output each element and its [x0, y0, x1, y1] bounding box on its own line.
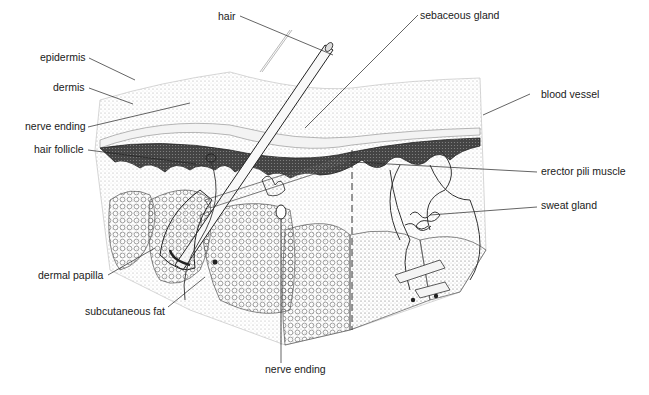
label-nerve-ending-top: nerve ending: [25, 120, 86, 132]
label-nerve-ending-bottom: nerve ending: [265, 363, 326, 375]
label-hair-follicle: hair follicle: [34, 143, 84, 155]
label-blood-vessel: blood vessel: [541, 88, 599, 100]
label-dermis: dermis: [53, 81, 85, 93]
label-subcutaneous-fat: subcutaneous fat: [85, 305, 165, 317]
label-sweat-gland: sweat gland: [541, 199, 597, 211]
label-dermal-papilla: dermal papilla: [38, 269, 103, 281]
skin-illustration: [0, 0, 649, 395]
label-epidermis: epidermis: [40, 51, 86, 63]
label-hair: hair: [218, 10, 236, 22]
label-erector-pili-muscle: erector pili muscle: [541, 165, 626, 177]
label-sebaceous-gland: sebaceous gland: [420, 9, 499, 21]
skin-diagram: epidermis dermis nerve ending hair folli…: [0, 0, 649, 395]
